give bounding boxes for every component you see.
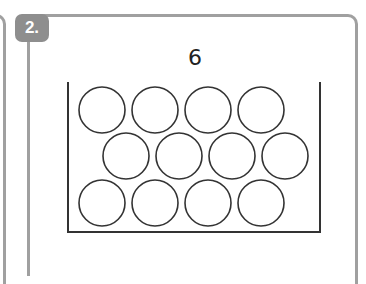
counter-circle[interactable] xyxy=(209,133,255,179)
counter-circle[interactable] xyxy=(79,87,125,133)
tray-outline xyxy=(68,82,320,232)
counter-circle[interactable] xyxy=(185,180,231,226)
counter-circle[interactable] xyxy=(238,180,284,226)
counter-circle[interactable] xyxy=(132,180,178,226)
counter-circle[interactable] xyxy=(185,87,231,133)
counter-circle[interactable] xyxy=(238,87,284,133)
counter-circle[interactable] xyxy=(132,87,178,133)
counter-circle[interactable] xyxy=(262,133,308,179)
circle-grid xyxy=(79,87,308,226)
counter-circle[interactable] xyxy=(79,180,125,226)
counter-circle[interactable] xyxy=(156,133,202,179)
counter-circle[interactable] xyxy=(103,133,149,179)
